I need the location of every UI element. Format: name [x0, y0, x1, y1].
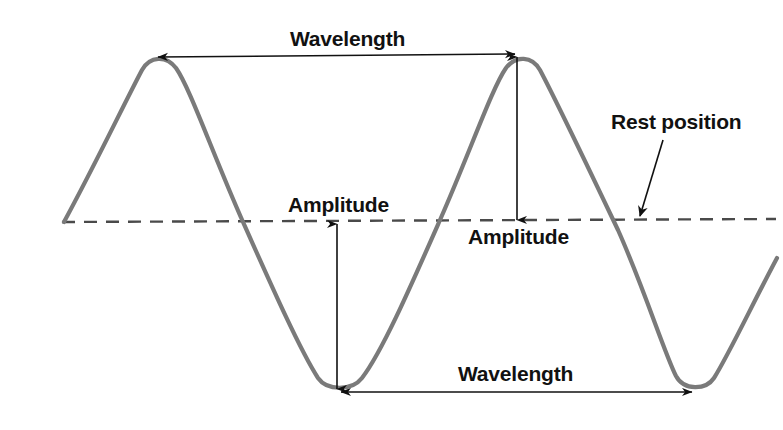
wave-curve [64, 59, 777, 388]
wavelength-top-arrow [158, 54, 515, 57]
amplitude-left-label: Amplitude [288, 193, 389, 217]
amplitude-right-label: Amplitude [468, 225, 569, 249]
wave-diagram-figure: Wavelength Amplitude Amplitude Rest posi… [0, 0, 783, 430]
rest-position-leader-arrow [640, 140, 663, 216]
wave-diagram-canvas [0, 0, 783, 430]
rest-position-label: Rest position [611, 110, 741, 134]
wavelength-bottom-label: Wavelength [458, 362, 573, 386]
rest-position-line [62, 219, 776, 222]
wavelength-top-label: Wavelength [290, 27, 405, 51]
